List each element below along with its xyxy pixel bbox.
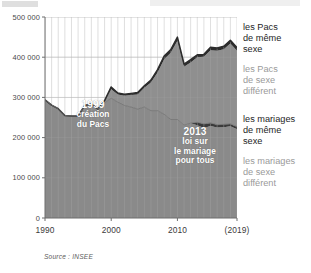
annotation-2013-line-2: pour tous: [157, 156, 233, 165]
legend-item-pacs-sexe-different: les Pacs de sexe différent: [243, 64, 278, 97]
legend-item-0-line-1: de même: [243, 33, 281, 44]
annotation-2013: 2013 loi sur le mariage pour tous: [157, 126, 233, 166]
legend-item-1-line-0: les Pacs: [243, 64, 278, 75]
legend-item-3-line-1: de sexe: [243, 167, 295, 178]
source-note: Source : INSEE: [44, 253, 93, 260]
y-tick-label: 400 000: [0, 53, 40, 62]
annotation-1999: 1999 création du Pacs: [64, 99, 122, 129]
y-tick-label: 200 000: [0, 133, 40, 142]
x-tick-label: 2000: [95, 225, 127, 235]
legend-item-2-line-1: de même: [243, 125, 295, 136]
x-tick-label: 1990: [29, 225, 61, 235]
chart-figure: 0100 000200 000300 000400 000500 000 199…: [0, 0, 311, 273]
y-tick-label: 100 000: [0, 173, 40, 182]
legend-item-3-line-0: les mariages: [243, 156, 295, 167]
y-tick-label: 300 000: [0, 93, 40, 102]
legend-item-3-line-2: différent: [243, 178, 295, 189]
legend-item-1-line-1: de sexe: [243, 75, 278, 86]
y-tick-label: 500 000: [0, 13, 40, 22]
legend-item-2-line-2: sexe: [243, 136, 295, 147]
annotation-1999-line-1: du Pacs: [64, 120, 122, 129]
legend-item-2-line-0: les mariages: [243, 114, 295, 125]
legend-item-0-line-0: les Pacs: [243, 22, 281, 33]
legend-item-1-line-2: différent: [243, 86, 278, 97]
legend-item-mariages-sexe-different: les mariages de sexe différent: [243, 156, 295, 189]
y-tick-label: 0: [0, 214, 40, 223]
x-tick-label: 2010: [161, 225, 193, 235]
legend-item-mariages-meme-sexe: les mariages de même sexe: [243, 114, 295, 147]
legend-item-0-line-2: sexe: [243, 44, 281, 55]
x-tick-label: (2019): [221, 225, 253, 235]
legend-item-pacs-meme-sexe: les Pacs de même sexe: [243, 22, 281, 55]
